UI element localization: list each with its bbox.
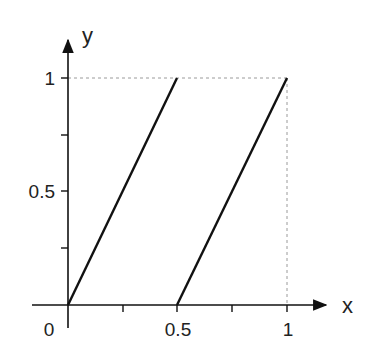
x-tick-label-1: 1 [283, 319, 294, 340]
plot-area: 0 0.5 1 0.5 1 x y [0, 0, 370, 363]
y-ticks [61, 78, 68, 248]
y-tick-label-1: 1 [44, 68, 55, 89]
x-tick-label-0: 0 [44, 319, 55, 340]
y-tick-label-0.5: 0.5 [29, 181, 55, 202]
series-segment-1 [68, 78, 177, 305]
x-axis-label: x [342, 293, 353, 318]
x-tick-label-0.5: 0.5 [165, 319, 191, 340]
y-axis-label: y [82, 23, 93, 48]
x-ticks [123, 305, 287, 312]
series-segment-2 [177, 78, 287, 305]
